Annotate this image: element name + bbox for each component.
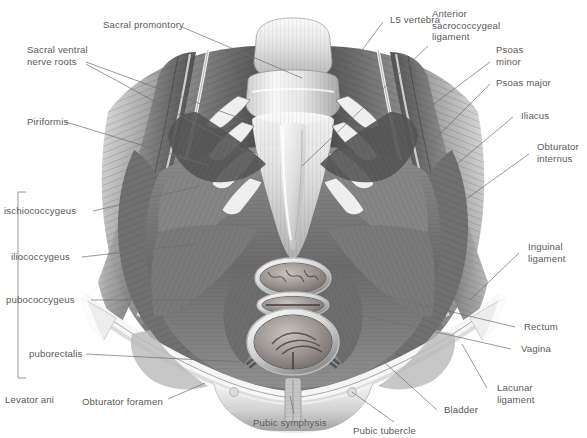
label-obturator-foramen: Obturator foramen: [82, 396, 163, 408]
label-obturator-internus: Obturator internus: [537, 141, 579, 164]
label-piriformis: Piriformis: [27, 116, 68, 128]
label-rectum: Rectum: [524, 321, 558, 333]
label-psoas-minor: Psoas minor: [496, 44, 523, 67]
anatomy-figure: Sacral promontory Sacral ventral nerve r…: [0, 0, 587, 438]
label-pubococcygeus: pubococcygeus: [6, 294, 75, 306]
bladder-opening: [247, 309, 339, 375]
label-puborectalis: puborectalis: [29, 348, 83, 360]
label-pubic-symphysis: Pubic symphysis: [253, 417, 327, 429]
label-ischiococcygeus: ischiococcygeus: [4, 205, 76, 217]
label-iliacus: Iliacus: [521, 110, 549, 122]
label-sacral-ventral-nerve-roots: Sacral ventral nerve roots: [27, 44, 88, 67]
pubic-tubercle-right: [348, 388, 357, 397]
pubic-tubercle-left: [230, 388, 239, 397]
pubic-symphysis: [285, 378, 301, 422]
label-lacunar-ligament: Lacunar ligament: [497, 382, 534, 405]
label-vagina: Vagina: [521, 343, 551, 355]
label-iliococcygeus: iliococcygeus: [11, 251, 70, 263]
label-psoas-major: Psoas major: [496, 77, 551, 89]
label-inguinal-ligament: Inguinal ligament: [528, 241, 565, 264]
label-levator-ani: Levator ani: [5, 394, 54, 406]
label-sacral-promontory: Sacral promontory: [103, 19, 184, 31]
label-bladder: Bladder: [444, 404, 478, 416]
label-pubic-tubercle: Pubic tubercle: [353, 425, 416, 437]
label-anterior-sacrococcygeal-ligament: Anterior sacrococcygeal ligament: [432, 8, 500, 43]
